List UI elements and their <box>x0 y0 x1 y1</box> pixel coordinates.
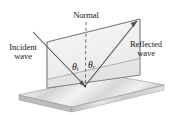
incident-wave-label-line2: wave <box>2 52 44 61</box>
normal-label: Normal <box>63 11 109 20</box>
incident-wave-label: Incident wave <box>2 43 44 61</box>
reflection-diagram: Normal Incident wave Reflected wave θi θ… <box>0 0 171 115</box>
angle-of-incidence-label: θi <box>72 61 78 72</box>
reflected-wave-label-line2: wave <box>125 49 167 58</box>
theta-incidence-subscript: i <box>76 65 78 72</box>
angle-of-reflection-label: θr <box>88 59 95 70</box>
reflection-point-marker <box>84 85 86 87</box>
reflected-wave-label: Reflected wave <box>125 40 167 58</box>
theta-reflection-subscript: r <box>92 63 95 70</box>
